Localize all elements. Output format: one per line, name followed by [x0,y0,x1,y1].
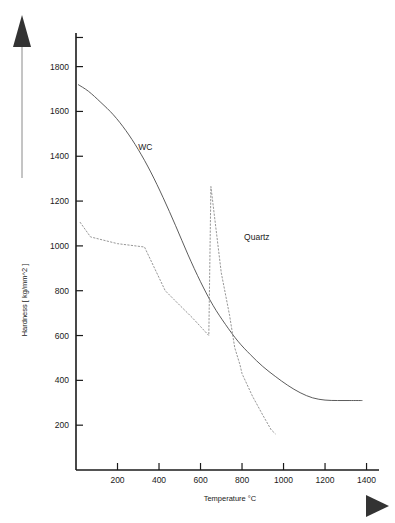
y-tick-label: 800 [55,286,69,296]
up-arrow-icon [13,15,31,178]
series-curve-wc [78,85,362,401]
x-tick-label: 200 [110,475,124,485]
y-tick-label: 1200 [50,196,69,206]
y-axis-title: Hardness [ kg/mm^2 ] [20,264,29,337]
x-tick-label: 600 [193,475,207,485]
x-axis-title: Temperature °C [204,494,257,503]
y-tick-label: 400 [55,375,69,385]
y-tick-label: 200 [55,420,69,430]
x-tick-label: 1000 [274,475,293,485]
series-curve-quartz [80,187,275,434]
chart-figure: 20040060080010001200140016001800 2004006… [0,0,395,523]
axis-frame [76,33,379,470]
y-tick-label: 1800 [50,62,69,72]
y-tick-label: 1600 [50,106,69,116]
series-label-wc: WC [138,142,152,152]
chart-canvas: 20040060080010001200140016001800 2004006… [0,0,395,523]
y-tick-label: 600 [55,331,69,341]
series-label-quartz: Quartz [244,232,270,242]
x-tick-label: 800 [235,475,249,485]
right-arrow-icon [366,495,389,517]
x-tick-label: 1200 [316,475,335,485]
y-tick-label: 1400 [50,151,69,161]
x-tick-label: 400 [152,475,166,485]
y-axis-ticks: 20040060080010001200140016001800 [50,37,83,430]
x-axis-ticks: 200400600800100012001400 [110,463,376,485]
y-tick-label: 1000 [50,241,69,251]
x-tick-label: 1400 [357,475,376,485]
